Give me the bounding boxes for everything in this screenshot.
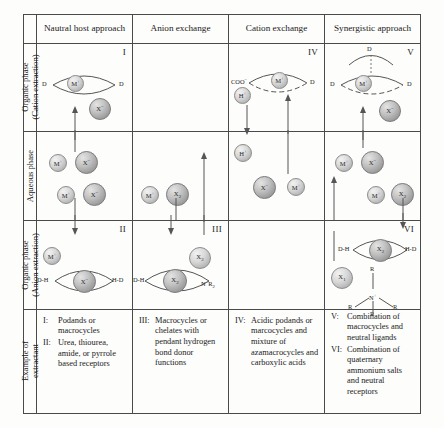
example-list: I: Podands or macrocycles II: Urea, thio… xyxy=(37,310,132,375)
example-item-number: IV: xyxy=(235,316,251,369)
panel-aqueous-neutral-host: M+ X− M+ X− xyxy=(37,132,133,221)
example-item-number: I: xyxy=(43,316,58,337)
proton-sphere-H: H+ xyxy=(234,87,251,104)
column-header-neutral-host: Nautral host approach xyxy=(37,15,133,44)
anion-sphere-X2: X2 xyxy=(369,239,392,262)
example-cell-anion-exchange: III: Macrocycles or chelates with pendan… xyxy=(133,309,229,413)
synergist-arc-icon xyxy=(347,50,395,66)
example-list: III: Macrocycles or chelates with pendan… xyxy=(133,310,228,374)
panel-VI-canvas: VI D-H H-D X2 xyxy=(325,221,420,309)
cation-sphere-M: M+ xyxy=(335,154,353,172)
row-label-line1: Organic phase xyxy=(20,240,30,289)
transfer-arrow-up xyxy=(199,215,209,235)
panel-I: I D D M+ X− xyxy=(37,43,133,132)
cation-sphere-M: M+ xyxy=(271,72,288,89)
transfer-arrow-up xyxy=(199,152,209,222)
panel-empty-anion-organic-cation xyxy=(133,43,229,132)
panel-aqueous-anion-exchange-canvas: M+ X2 xyxy=(133,132,228,220)
host-donor-right-label: H-D xyxy=(405,245,416,252)
transfer-arrow-up xyxy=(283,130,293,174)
example-item: II: Urea, thiourea, amide, or pyrrole ba… xyxy=(43,338,127,370)
anion-sphere-X2-bound: X2 xyxy=(163,269,187,293)
row-label-line1: Example of xyxy=(20,341,30,381)
panel-numeral: I xyxy=(123,47,126,57)
host-lens-icon xyxy=(51,70,117,100)
transfer-arrow-down xyxy=(70,215,80,235)
transfer-arrow-down xyxy=(242,105,252,135)
column-header-cation-exchange: Cation exchange xyxy=(229,15,325,44)
example-cell-neutral-host: I: Podands or macrocycles II: Urea, thio… xyxy=(37,309,133,413)
example-item: IV: Acidic podands or marcocycles and mi… xyxy=(235,316,319,369)
panel-II: II M+ D-H H-D X− xyxy=(37,221,133,310)
panel-IV-canvas: IV COO− D M+ H+ xyxy=(229,44,324,132)
row-label-text: Aqueous phase xyxy=(25,150,35,202)
panel-aqueous-synergistic-canvas: M+ X− M+ X2 xyxy=(325,132,420,220)
table-header-row: Nautral host approach Anion exchange Cat… xyxy=(24,15,421,44)
anion-sphere-X: X− xyxy=(73,270,96,293)
cation-sphere-M: M+ xyxy=(355,75,372,92)
cation-sphere-M: M+ xyxy=(141,186,159,204)
example-item-number: II: xyxy=(43,338,58,370)
panel-aqueous-cation-exchange: H+ X− M+ xyxy=(229,132,325,221)
panel-V: V D D D M+ X− xyxy=(325,43,421,132)
example-item: VI: Combination of quaternary ammonium s… xyxy=(331,345,415,398)
cation-sphere-M: M+ xyxy=(43,247,61,265)
host-carboxylate-label: COO− xyxy=(231,77,247,85)
panel-numeral: II xyxy=(119,224,126,234)
anion-sphere-X: X− xyxy=(253,176,276,199)
panel-empty-cation-organic-anion xyxy=(229,221,325,310)
panel-V-canvas: V D D D M+ X− xyxy=(325,44,420,132)
column-header-label: Anion exchange xyxy=(133,15,228,43)
example-item-number: V: xyxy=(331,312,347,344)
transfer-arrow-up xyxy=(283,94,293,134)
example-list: IV: Acidic podands or marcocycles and mi… xyxy=(229,310,324,374)
anion-sphere-X: X− xyxy=(83,183,106,206)
anion-sphere-X2-free: X2 xyxy=(189,247,211,269)
host-donor-right-label: H-D xyxy=(112,276,123,283)
panel-III: III D-H N+R2 X2 xyxy=(133,221,229,310)
cation-sphere-M: M+ xyxy=(67,75,84,92)
column-header-label: Cation exchange xyxy=(229,15,324,43)
transfer-arrow-up xyxy=(70,130,80,152)
panel-I-canvas: I D D M+ X− xyxy=(37,44,132,132)
panel-aqueous-synergistic: M+ X− M+ X2 xyxy=(325,132,421,221)
panel-VI: VI D-H H-D X2 xyxy=(325,221,421,310)
panel-IV: IV COO− D M+ H+ xyxy=(229,43,325,132)
host-donor-right-label: D xyxy=(310,78,315,85)
row-organic-cation: Organic phase (Cation extraction) I D D … xyxy=(24,43,421,132)
row-label-organic-anion: Organic phase (Anion extraction) xyxy=(24,221,37,310)
cation-sphere-M: M+ xyxy=(49,154,67,172)
anion-sphere-X: X− xyxy=(361,151,384,174)
host-donor-left-label: D-H xyxy=(338,245,349,252)
example-list: V: Combination of macrocycles and neutra… xyxy=(325,310,420,403)
column-header-anion-exchange: Anion exchange xyxy=(133,15,229,44)
panel-numeral: III xyxy=(212,224,222,234)
example-item-text: Macrocycles or chelates with pendant hyd… xyxy=(155,316,223,369)
synergist-donor-top-label: D xyxy=(367,45,372,52)
host-donor-left-label: D xyxy=(330,80,335,87)
cation-sphere-M: M+ xyxy=(367,186,385,204)
example-item-text: Acidic podands or marcocycles and mixtur… xyxy=(251,316,319,369)
cation-sphere-M: M+ xyxy=(287,178,305,196)
host-donor-left-label: D-H xyxy=(37,276,48,283)
column-header-label: Synergistic approach xyxy=(325,15,420,43)
host-donor-left-label: D xyxy=(42,80,47,87)
corner-cell xyxy=(24,15,37,44)
approach-matrix-table: Nautral host approach Anion exchange Cat… xyxy=(23,14,421,414)
transfer-arrow-down xyxy=(166,215,176,235)
example-item-text: Combination of quaternary ammonium salts… xyxy=(347,345,415,398)
example-item: III: Macrocycles or chelates with pendan… xyxy=(139,316,223,369)
panel-III-canvas: III D-H N+R2 X2 xyxy=(133,221,228,309)
host-donor-right-label: D xyxy=(407,80,412,87)
panel-aqueous-neutral-host-canvas: M+ X− M+ X− xyxy=(37,132,132,220)
row-organic-anion: Organic phase (Anion extraction) II M+ xyxy=(24,221,421,310)
example-item-text: Urea, thiourea, amide, or pyrrole based … xyxy=(58,338,127,370)
host-donor-right-label: D xyxy=(119,80,124,87)
figure-canvas: Nautral host approach Anion exchange Cat… xyxy=(0,0,444,428)
proton-sphere-H: H+ xyxy=(234,144,252,162)
example-cell-cation-exchange: IV: Acidic podands or marcocycles and mi… xyxy=(229,309,325,413)
anion-sphere-X: X− xyxy=(75,151,98,174)
anion-sphere-X: X− xyxy=(379,100,401,122)
column-header-label: Nautral host approach xyxy=(37,15,132,43)
row-label-line1: Organic phase xyxy=(20,63,30,112)
